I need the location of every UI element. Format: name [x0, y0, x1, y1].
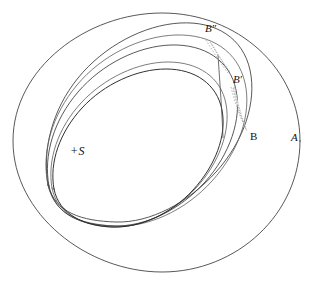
label-B-double-prime: B″	[205, 23, 216, 34]
orbit-ellipse-mid2	[46, 35, 247, 226]
displacement-sliver-upper	[210, 42, 230, 72]
label-A: A	[291, 132, 298, 143]
orbit-ellipse-outer	[46, 23, 252, 222]
orbit-outer-A	[13, 13, 300, 272]
motion-guide-upper	[206, 40, 228, 73]
orbital-diagram: +S A B B′ B″	[0, 0, 310, 286]
label-B: B	[250, 131, 257, 142]
meridian-line-upper	[218, 55, 223, 138]
label-B-prime: B′	[233, 74, 242, 85]
central-star-label: +S	[70, 145, 85, 157]
orbit-canvas	[0, 0, 310, 286]
